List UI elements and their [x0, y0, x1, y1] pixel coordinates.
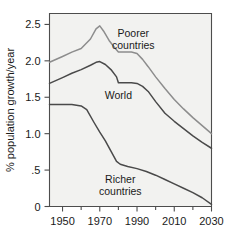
x-tick-label: 1950 — [50, 215, 74, 227]
x-axis-tick-labels: 19501970199020102030 — [50, 215, 223, 227]
y-tick-label: .5 — [31, 164, 40, 176]
x-axis-ticks — [63, 207, 212, 212]
series-annotation: Poorercountries — [112, 27, 155, 51]
x-tick-label: 1990 — [125, 215, 149, 227]
annotation-line-2: countries — [112, 39, 155, 51]
y-tick-label: 0 — [34, 201, 40, 213]
population-growth-line-chart: 0.51.01.52.02.5 19501970199020102030 Poo… — [0, 0, 237, 239]
y-tick-label: 2.0 — [25, 55, 40, 67]
annotation-line-1: Richer — [105, 173, 136, 185]
y-axis-ticks — [45, 24, 50, 206]
x-tick-label: 1970 — [88, 215, 112, 227]
x-tick-label: 2030 — [199, 215, 223, 227]
annotation-line-2: countries — [99, 185, 142, 197]
x-tick-label: 2010 — [162, 215, 186, 227]
y-tick-label: 2.5 — [25, 18, 40, 30]
y-tick-label: 1.0 — [25, 128, 40, 140]
annotation-line-1: World — [105, 89, 132, 101]
y-tick-label: 1.5 — [25, 91, 40, 103]
series-annotation: Richercountries — [99, 173, 142, 197]
series-annotation: World — [105, 89, 132, 101]
y-axis-title: % population growth/year — [4, 48, 16, 172]
y-axis-tick-labels: 0.51.01.52.02.5 — [25, 18, 40, 212]
annotation-line-1: Poorer — [118, 27, 150, 39]
chart-figure: 0.51.01.52.02.5 19501970199020102030 Poo… — [0, 0, 237, 239]
